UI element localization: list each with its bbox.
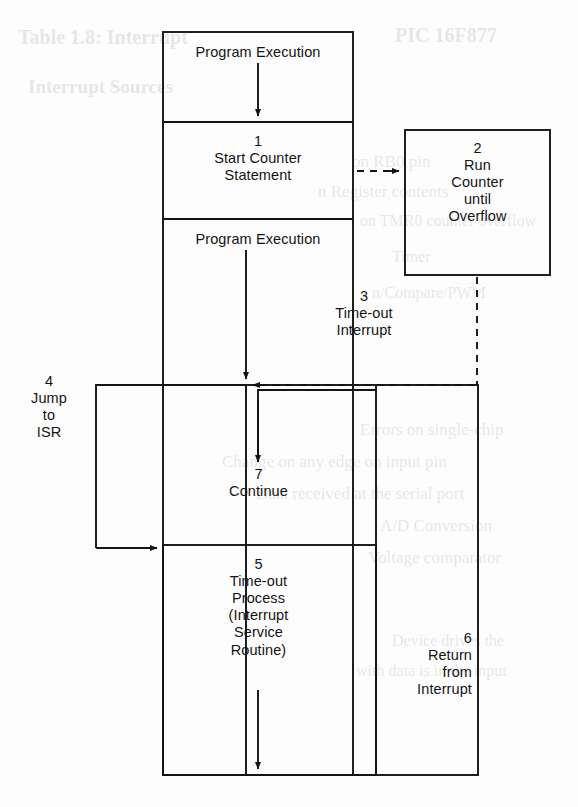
label-time-out-interrupt: 3 Time-out Interrupt — [300, 288, 428, 339]
label-continue: 7 Continue — [196, 466, 321, 500]
diagram-page: Table 1.8: InterruptPIC 16F877Interrupt … — [0, 0, 578, 807]
label-program-execution-top: Program Execution — [163, 44, 353, 61]
label-program-execution-middle: Program Execution — [163, 231, 353, 248]
label-run-counter-until-overflow: 2 Run Counter until Overflow — [405, 140, 550, 226]
arrow-into-continue — [258, 390, 375, 455]
label-jump-to-isr: 4 Jump to ISR — [8, 373, 90, 441]
label-time-out-process-isr: 5 Time-out Process (Interrupt Service Ro… — [176, 556, 341, 659]
label-start-counter-statement: 1 Start Counter Statement — [163, 133, 353, 184]
label-return-from-interrupt: 6 Return from Interrupt — [376, 630, 472, 698]
